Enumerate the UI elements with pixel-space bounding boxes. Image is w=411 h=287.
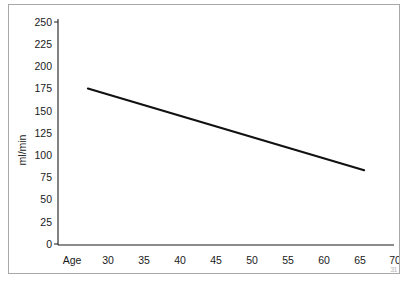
x-tick-label: 70 bbox=[389, 254, 399, 266]
y-axis-title: ml/min bbox=[16, 134, 28, 165]
figure-frame: 250 225 200 175 150 125 100 75 50 25 0 m… bbox=[8, 4, 400, 274]
y-tick-label: 200 bbox=[34, 60, 52, 72]
x-tick-label: 60 bbox=[318, 254, 330, 266]
y-tick-label: 0 bbox=[46, 238, 52, 250]
x-tick-label: 50 bbox=[246, 254, 258, 266]
y-tick-label: 250 bbox=[34, 16, 52, 28]
x-tick-label: 65 bbox=[354, 254, 366, 266]
y-axis-ticks bbox=[54, 22, 58, 244]
y-tick-label: 125 bbox=[34, 127, 52, 139]
y-tick-label: 75 bbox=[40, 171, 52, 183]
y-tick-label: 150 bbox=[34, 105, 52, 117]
x-axis-tick-labels: Age 30 35 40 45 50 55 60 65 70 bbox=[63, 254, 399, 266]
data-series-line bbox=[88, 89, 364, 171]
x-tick-label: 45 bbox=[210, 254, 222, 266]
x-tick-label: 40 bbox=[174, 254, 186, 266]
y-tick-label: 50 bbox=[40, 193, 52, 205]
y-tick-label: 100 bbox=[34, 149, 52, 161]
x-tick-label: 35 bbox=[138, 254, 150, 266]
x-tick-label: 55 bbox=[282, 254, 294, 266]
y-tick-label: 175 bbox=[34, 82, 52, 94]
y-tick-label: 225 bbox=[34, 38, 52, 50]
x-axis-title: Age bbox=[63, 254, 82, 266]
x-tick-label: 30 bbox=[102, 254, 114, 266]
corner-page-mark: 31 bbox=[390, 266, 397, 273]
y-tick-label: 25 bbox=[40, 216, 52, 228]
line-chart: 250 225 200 175 150 125 100 75 50 25 0 m… bbox=[9, 5, 399, 273]
y-axis-tick-labels: 250 225 200 175 150 125 100 75 50 25 0 bbox=[34, 16, 52, 250]
